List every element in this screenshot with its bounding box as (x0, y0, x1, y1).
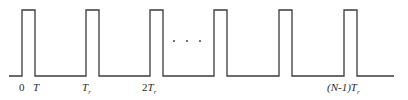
label-N-minus-1-prefix: (N-1) (327, 81, 351, 93)
label-T-text: T (33, 81, 39, 93)
label-2Tr: 2Tr (142, 82, 156, 96)
label-Tr-sub: r (88, 88, 91, 96)
ellipsis-dot (173, 40, 175, 42)
label-N-minus-1-Tr: (N-1)Tr (327, 82, 360, 96)
ellipsis-dot (186, 40, 188, 42)
label-N-minus-1-sub: r (357, 88, 360, 96)
label-pulse-width-T: T (33, 82, 39, 93)
label-zero-text: 0 (19, 81, 25, 93)
label-2Tr-sub: r (154, 88, 157, 96)
ellipsis-dot (199, 40, 201, 42)
label-zero: 0 (19, 82, 25, 93)
pulse-train-waveform (9, 10, 394, 76)
label-period-Tr: Tr (82, 82, 91, 96)
